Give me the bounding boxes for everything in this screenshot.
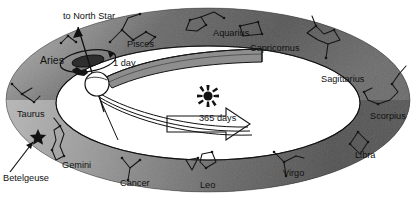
label-365-days: 365 days — [199, 113, 237, 123]
label-virgo: Virgo — [283, 168, 304, 178]
earth-sphere — [85, 72, 109, 96]
label-leo: Leo — [200, 180, 215, 190]
label-scorpius: Scorpius — [370, 111, 406, 121]
diagram-canvas: to North Star 1 day 365 days Betelgeuse … — [0, 0, 416, 200]
label-taurus: Taurus — [17, 109, 45, 119]
label-libra: Libra — [355, 150, 376, 160]
label-aries: Aries — [40, 54, 64, 66]
sun-icon — [197, 85, 219, 107]
label-gemini: Gemini — [62, 160, 91, 170]
label-to-north-star: to North Star — [63, 11, 115, 21]
label-betelgeuse: Betelgeuse — [3, 173, 49, 183]
label-capricornus: Capricornus — [250, 43, 300, 53]
label-sagittarius: Sagittarius — [321, 74, 365, 84]
label-one-day: 1 day — [113, 58, 136, 68]
label-aquarius: Aquarius — [213, 28, 250, 38]
label-cancer: Cancer — [120, 178, 150, 188]
label-pisces: Pisces — [127, 39, 154, 49]
astronomy-diagram: to North Star 1 day 365 days Betelgeuse … — [0, 0, 416, 200]
